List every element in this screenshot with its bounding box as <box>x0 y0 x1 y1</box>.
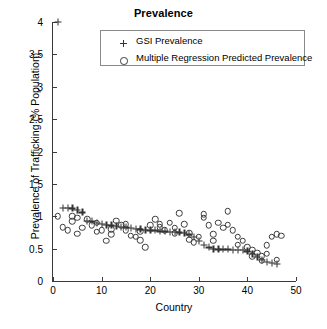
data-point-gsi <box>74 206 81 213</box>
legend-label: Multiple Regression Predicted Prevalence <box>136 52 312 63</box>
data-point-regression <box>210 231 217 238</box>
data-point-gsi <box>54 19 61 26</box>
data-point-regression <box>142 244 149 251</box>
data-point-regression <box>98 227 105 234</box>
data-point-regression <box>186 236 193 243</box>
data-point-regression <box>59 224 66 231</box>
data-point-gsi <box>118 223 125 230</box>
data-point-gsi <box>234 246 241 253</box>
data-point-gsi <box>254 254 261 261</box>
data-point-regression <box>259 253 266 260</box>
data-point-regression <box>239 238 246 245</box>
data-point-gsi <box>171 228 178 235</box>
data-point-gsi <box>190 233 197 240</box>
data-point-regression <box>234 241 241 248</box>
x-tick-label: 0 <box>38 285 68 296</box>
data-point-regression <box>93 229 100 236</box>
data-point-gsi <box>88 218 95 225</box>
chart-title: Prevalence <box>0 7 327 19</box>
data-point-gsi <box>69 205 76 212</box>
data-point-regression <box>157 224 164 231</box>
data-point-gsi <box>176 229 183 236</box>
data-point-regression <box>205 222 212 229</box>
data-point-regression <box>225 221 232 228</box>
data-point-regression <box>259 258 266 265</box>
data-point-regression <box>157 221 164 228</box>
x-axis-line <box>52 281 296 282</box>
x-axis-label: Country <box>52 301 296 313</box>
data-point-regression <box>123 221 130 228</box>
data-point-gsi <box>200 241 207 248</box>
data-point-gsi <box>98 221 105 228</box>
data-point-regression <box>264 251 271 258</box>
data-point-gsi <box>249 250 256 257</box>
data-point-regression <box>166 219 173 226</box>
legend-entry-gsi: GSI Prevalence <box>101 32 304 49</box>
data-point-regression <box>171 230 178 237</box>
data-point-regression <box>79 225 86 232</box>
data-point-gsi <box>59 204 66 211</box>
prevalence-chart-figure: Prevalence 00.511.522.533.54 01020304050… <box>0 0 327 329</box>
data-point-gsi <box>186 231 193 238</box>
data-point-regression <box>278 232 285 239</box>
data-point-regression <box>118 222 125 229</box>
data-point-regression <box>137 228 144 235</box>
x-tick-label: 10 <box>87 285 117 296</box>
data-point-regression <box>249 247 256 254</box>
data-point-regression <box>230 227 237 234</box>
data-point-gsi <box>161 228 168 235</box>
data-point-gsi <box>215 246 222 253</box>
data-point-regression <box>234 234 241 241</box>
data-point-regression <box>162 227 169 234</box>
x-tick-label: 40 <box>232 285 262 296</box>
data-point-regression <box>108 226 115 233</box>
data-point-gsi <box>127 224 134 231</box>
data-point-gsi <box>93 219 100 226</box>
data-point-gsi <box>210 245 217 252</box>
data-point-regression <box>152 216 159 223</box>
data-point-gsi <box>273 260 280 267</box>
data-point-regression <box>225 208 232 215</box>
data-point-regression <box>273 231 280 238</box>
data-point-regression <box>181 221 188 228</box>
data-point-regression <box>220 225 227 232</box>
data-point-regression <box>268 234 275 241</box>
x-tick-label: 50 <box>281 285 311 296</box>
data-point-gsi <box>64 204 71 211</box>
data-point-gsi <box>142 226 149 233</box>
data-point-gsi <box>239 246 246 253</box>
data-point-gsi <box>195 237 202 244</box>
data-point-regression <box>244 244 251 251</box>
data-point-regression <box>93 219 100 226</box>
data-point-gsi <box>229 246 236 253</box>
data-point-gsi <box>258 256 265 263</box>
data-point-gsi <box>205 244 212 251</box>
data-point-gsi <box>122 224 129 231</box>
data-point-gsi <box>244 248 251 255</box>
data-point-regression <box>89 222 96 229</box>
chart-legend: GSI Prevalence Multiple Regression Predi… <box>100 30 305 66</box>
data-point-regression <box>191 239 198 246</box>
data-point-regression <box>171 225 178 232</box>
data-point-regression <box>74 214 81 221</box>
data-point-gsi <box>132 225 139 232</box>
legend-label: GSI Prevalence <box>136 35 203 46</box>
data-point-regression <box>215 219 222 226</box>
x-tick-label: 30 <box>184 285 214 296</box>
data-point-regression <box>128 232 135 239</box>
data-point-gsi <box>108 222 115 229</box>
data-point-gsi <box>181 230 188 237</box>
data-point-regression <box>132 234 139 241</box>
data-point-regression <box>147 222 154 229</box>
data-point-regression <box>200 214 207 221</box>
data-point-regression <box>103 238 110 245</box>
data-point-regression <box>108 231 115 238</box>
data-point-regression <box>186 230 193 237</box>
data-point-regression <box>176 210 183 217</box>
data-point-regression <box>249 253 256 260</box>
data-point-regression <box>74 230 81 237</box>
data-point-gsi <box>147 227 154 234</box>
data-point-regression <box>69 213 76 220</box>
data-point-gsi <box>156 228 163 235</box>
data-point-regression <box>273 256 280 263</box>
